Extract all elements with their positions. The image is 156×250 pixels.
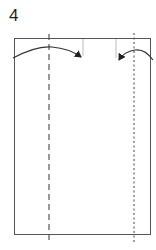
fold-diagram — [0, 0, 156, 250]
paper-sheet — [15, 39, 151, 235]
fold-arrow-right — [119, 50, 153, 60]
fold-arrow-left — [13, 47, 81, 58]
